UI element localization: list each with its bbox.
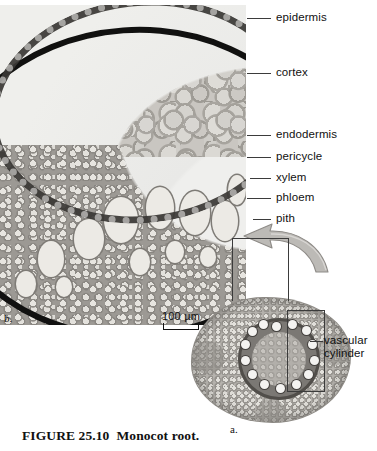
vascular-cylinder-box bbox=[287, 310, 325, 392]
leader-line-epidermis bbox=[247, 18, 271, 19]
callout-label-phloem: phloem bbox=[276, 191, 314, 203]
callout-label-epidermis: epidermis bbox=[276, 11, 327, 23]
vascular-bundle bbox=[241, 340, 250, 349]
leader-line-cortex bbox=[247, 73, 271, 74]
magnification-source-box bbox=[232, 238, 289, 301]
vascular-cylinder-leader-line bbox=[310, 341, 323, 342]
vascular-cylinder-label: vascular cylinder bbox=[324, 334, 377, 360]
callout-label-xylem: xylem bbox=[276, 171, 307, 183]
leader-line-phloem bbox=[247, 198, 271, 199]
vascular-bundle bbox=[276, 384, 285, 393]
root-cross-section-panel-a: a. bbox=[186, 292, 368, 432]
vascular-bundle bbox=[260, 380, 269, 389]
vascular-bundle bbox=[248, 370, 257, 379]
vascular-bundle bbox=[241, 356, 250, 365]
figure-caption: FIGURE 25.10Monocot root. bbox=[22, 428, 199, 444]
panel-a-letter: a. bbox=[230, 423, 238, 435]
leader-line-endodermis bbox=[247, 135, 271, 136]
vascular-bundle bbox=[272, 322, 281, 331]
figure-title: Monocot root. bbox=[116, 428, 199, 443]
callout-label-pericycle: pericycle bbox=[276, 150, 322, 162]
figure-number: FIGURE 25.10 bbox=[22, 428, 109, 443]
leader-line-xylem bbox=[250, 178, 271, 179]
micrograph-panel-b bbox=[0, 5, 246, 325]
vascular-bundle bbox=[248, 327, 257, 336]
leader-line-pericycle bbox=[247, 157, 271, 158]
leader-line-pith bbox=[253, 219, 271, 220]
panel-b-letter: b. bbox=[4, 312, 12, 324]
callout-label-endodermis: endodermis bbox=[276, 128, 337, 140]
callout-label-cortex: cortex bbox=[276, 66, 308, 78]
vascular-bundle bbox=[259, 320, 268, 329]
